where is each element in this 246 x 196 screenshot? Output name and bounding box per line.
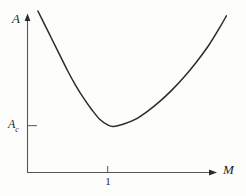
y-tick-label-ac-subscript: c: [15, 125, 19, 134]
x-tick-label-one: 1: [105, 176, 111, 187]
y-axis-label: A: [12, 12, 20, 25]
x-axis: [27, 170, 217, 176]
y-axis: [25, 14, 31, 173]
x-axis-arrow-icon: [209, 170, 217, 176]
y-axis-arrow-icon: [25, 14, 31, 22]
plot-svg: [0, 0, 246, 196]
y-tick-label-ac: Ac: [8, 118, 19, 133]
curve-a-of-m: [38, 11, 226, 126]
figure-container: A M Ac 1: [0, 0, 246, 196]
x-axis-label: M: [223, 163, 234, 176]
